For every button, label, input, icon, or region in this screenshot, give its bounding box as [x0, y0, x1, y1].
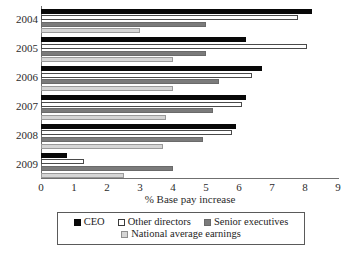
x-axis-title: % Base pay increase: [41, 193, 339, 205]
legend-item-label: National average earnings: [131, 228, 241, 240]
bar: [41, 124, 236, 129]
bar-group-2004: [41, 6, 338, 35]
bar: [41, 28, 140, 33]
bar: [41, 86, 173, 91]
bar: [41, 9, 312, 14]
bar: [41, 159, 84, 164]
y-tick-label: 2008: [2, 129, 38, 141]
legend-item-label: Other directors: [128, 216, 191, 228]
bar-group-2008: [41, 121, 338, 150]
x-tick-label: 3: [130, 181, 150, 193]
x-tick-label: 4: [163, 181, 183, 193]
bar: [41, 108, 213, 113]
bar: [41, 15, 298, 20]
x-tick-label: 2: [97, 181, 117, 193]
bar-group-2006: [41, 64, 338, 93]
bar: [41, 144, 163, 149]
y-tick-label: 2004: [2, 13, 38, 25]
legend-item: Senior executives: [204, 216, 288, 228]
legend-item: Other directors: [118, 216, 191, 228]
legend-item-label: CEO: [84, 216, 105, 228]
x-tick-label: 7: [262, 181, 282, 193]
x-tick-label: 6: [229, 181, 249, 193]
y-tick-label: 2009: [2, 158, 38, 170]
bar-group-2007: [41, 93, 338, 122]
x-tick-label: 0: [31, 181, 51, 193]
bar: [41, 57, 173, 62]
bar: [41, 95, 246, 100]
bar-group-2009: [41, 150, 338, 179]
bar: [41, 130, 232, 135]
empty-white-square-icon: [118, 219, 125, 226]
bar: [41, 44, 307, 49]
bar: [41, 66, 262, 71]
filled-darkgray-square-icon: [204, 219, 211, 226]
filled-black-square-icon: [74, 219, 81, 226]
legend-item: National average earnings: [121, 228, 241, 240]
x-tick-label: 1: [64, 181, 84, 193]
y-tick-label: 2007: [2, 100, 38, 112]
bar: [41, 51, 206, 56]
x-tick-label: 8: [295, 181, 315, 193]
bar: [41, 137, 203, 142]
bar: [41, 102, 242, 107]
bar: [41, 79, 219, 84]
bar: [41, 73, 252, 78]
bar: [41, 153, 67, 158]
bar: [41, 166, 173, 171]
plot-area: [41, 6, 338, 178]
y-tick-label: 2006: [2, 71, 38, 83]
legend-item-label: Senior executives: [214, 216, 288, 228]
x-tick-label: 5: [196, 181, 216, 193]
bar: [41, 173, 124, 178]
y-axis-tick-labels: 200420052006200720082009: [0, 6, 38, 179]
bar: [41, 37, 246, 42]
legend-item: CEO: [74, 216, 105, 228]
chart-legend: CEOOther directorsSenior executives Nati…: [57, 212, 305, 245]
bar: [41, 22, 206, 27]
legend-row-primary: CEOOther directorsSenior executives: [60, 216, 302, 228]
filled-lightgray-square-icon: [121, 231, 128, 238]
x-tick-label: 9: [328, 181, 348, 193]
legend-row-secondary: National average earnings: [60, 228, 302, 240]
chart-figure: 200420052006200720082009 % Base pay incr…: [0, 0, 357, 259]
bar: [41, 115, 166, 120]
bar-group-2005: [41, 35, 338, 64]
y-tick-label: 2005: [2, 42, 38, 54]
